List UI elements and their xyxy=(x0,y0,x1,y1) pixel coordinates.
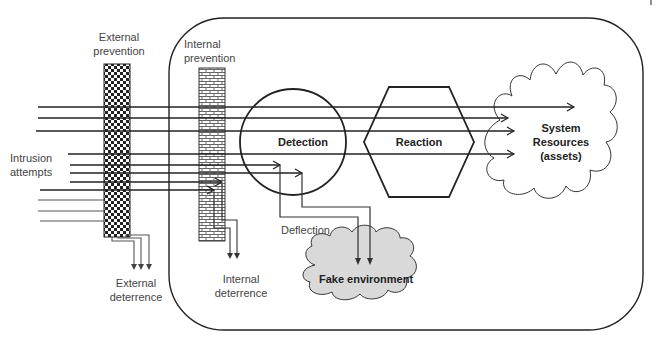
intrusion-attempts-label-line1: Intrusion xyxy=(10,151,60,165)
external-deterrence-label-line1: External xyxy=(104,276,168,290)
fake-environment-label: Fake environment xyxy=(316,272,416,286)
system-resources-label-line3: (assets) xyxy=(526,149,596,163)
system-resources-label-line2: Resources xyxy=(526,135,596,149)
detection-label: Detection xyxy=(268,135,338,149)
deflection-label: Deflection xyxy=(281,223,337,237)
system-resources-label-line1: System xyxy=(526,121,596,135)
external-prevention-label-line1: External xyxy=(86,30,152,44)
reaction-label: Reaction xyxy=(384,135,454,149)
system-resources-label: System Resources (assets) xyxy=(526,121,596,163)
external-prevention-label-line2: prevention xyxy=(86,44,152,58)
internal-deterrence-label-line1: Internal xyxy=(208,272,274,286)
intrusion-attempts-label: Intrusion attempts xyxy=(10,151,60,179)
internal-prevention-label: Internal prevention xyxy=(184,37,246,65)
internal-deterrence-label: Internal deterrence xyxy=(208,272,274,300)
external-deterrence-path-3 xyxy=(126,235,149,267)
external-prevention-wall xyxy=(104,64,130,237)
external-prevention-label: External prevention xyxy=(86,30,152,58)
internal-deterrence-label-line2: deterrence xyxy=(208,286,274,300)
internal-prevention-label-line2: prevention xyxy=(184,51,246,65)
intrusion-attempts-label-line2: attempts xyxy=(10,165,60,179)
external-deterrence-label: External deterrence xyxy=(104,276,168,304)
internal-prevention-label-line1: Internal xyxy=(184,37,246,51)
external-deterrence-label-line2: deterrence xyxy=(104,290,168,304)
external-deterrence-path-1 xyxy=(112,237,134,267)
